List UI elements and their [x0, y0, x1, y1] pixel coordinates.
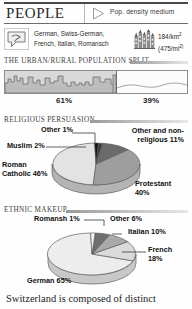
ethnic-label-french-line-1: French: [148, 245, 172, 254]
page-title: PEOPLE: [6, 5, 65, 22]
ethnic-label-other: Other 6%: [110, 214, 142, 223]
urban-rural-percent-labels: 61% 39%: [4, 96, 188, 107]
speech-bubble-icon: [4, 28, 29, 50]
section-header-urban-rural: THE URBAN/RURAL POPULATION SPLIT: [4, 57, 188, 68]
density-metric-sup: 2: [179, 32, 182, 37]
religion-label-other: Other 1%: [41, 125, 73, 134]
languages-line-2: French, Italian, Romansch: [34, 40, 109, 47]
cityscape-icon: [134, 29, 155, 49]
religion-label-protestant: Protestant 40%: [135, 179, 171, 197]
header-rule-bottom: [4, 23, 188, 24]
religion-label-catholic-line-1: Roman: [2, 160, 27, 169]
density-imperial: (475/mi: [158, 45, 179, 52]
urban-percent: 61%: [56, 96, 72, 105]
section-header-religion-label: RELIGIOUS PERSUASION: [4, 116, 95, 124]
pop-density-label: Pop. density medium: [110, 8, 174, 15]
ethnic-label-german: German 65%: [27, 276, 71, 285]
religion-label-catholic: Roman Catholic 46%: [2, 160, 47, 178]
languages-text: German, Swiss-German, French, Italian, R…: [34, 29, 109, 48]
religion-label-protestant-line-2: 40%: [135, 188, 150, 197]
religion-label-catholic-line-2: Catholic 46%: [2, 169, 47, 178]
section-header-urban-rural-label: THE URBAN/RURAL POPULATION SPLIT: [4, 57, 149, 65]
ethnic-label-french: French 18%: [148, 245, 172, 263]
density-metric: 184/km: [158, 33, 179, 40]
triangle-right-icon: [92, 7, 105, 20]
section-header-religion-bar: [90, 120, 188, 123]
ethnic-label-french-line-2: 18%: [148, 254, 163, 263]
rural-percent: 39%: [143, 96, 159, 105]
split-silhouette: [5, 71, 187, 93]
ethnic-pie-chart: Romansh 1% Other 6% Italian 10% French 1…: [0, 214, 192, 290]
body-caption: Switzerland is composed of distinct: [6, 293, 192, 304]
religion-label-muslim: Muslim 2%: [7, 141, 45, 150]
fact-row: German, Swiss-German, French, Italian, R…: [4, 27, 188, 54]
urban-rural-split-bar: [4, 70, 188, 94]
density-imperial-sup: 2): [179, 44, 183, 49]
page-header: PEOPLE Pop. density medium: [4, 2, 188, 24]
religion-label-protestant-line-1: Protestant: [135, 179, 171, 188]
header-rule-top: [4, 2, 188, 4]
section-header-ethnic-label: ETHNIC MAKEUP: [4, 206, 67, 214]
section-header-ethnic-bar: [66, 210, 188, 213]
ethnic-label-romansh: Romansh 1%: [34, 214, 80, 223]
ethnic-label-italian: Italian 10%: [128, 227, 166, 236]
density-text: 184/km2 (475/mi2): [158, 30, 183, 53]
people-infographic-page: PEOPLE Pop. density medium German, Swiss…: [0, 0, 192, 309]
religion-pie-chart: Other 1% Muslim 2% Roman Catholic 46% Ot…: [0, 124, 192, 206]
languages-line-1: German, Swiss-German,: [34, 30, 104, 37]
header-divider: [84, 4, 85, 23]
split-divider: [116, 71, 117, 93]
section-header-urban-rural-bar: [130, 61, 188, 64]
religion-label-other-nonreligious: Other and non-religious 11%: [112, 126, 184, 144]
